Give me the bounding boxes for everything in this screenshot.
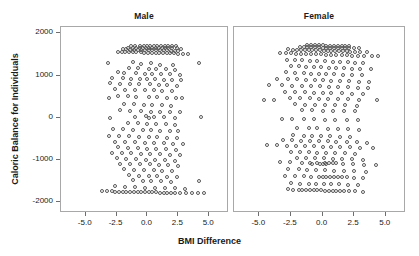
data-point	[120, 151, 124, 155]
data-point	[309, 72, 313, 76]
data-point	[333, 118, 337, 122]
x-tick	[116, 212, 117, 216]
data-point	[326, 127, 330, 131]
y-tick-label: 0	[20, 112, 53, 121]
data-point	[155, 135, 159, 139]
data-point	[357, 80, 361, 84]
data-point	[158, 110, 162, 114]
panel-strip-label-male: Male	[60, 11, 228, 21]
data-point	[302, 117, 306, 121]
data-point	[314, 52, 318, 56]
data-point	[293, 174, 297, 178]
data-point	[178, 73, 182, 77]
y-tick-label: 2000	[20, 27, 53, 36]
data-point	[159, 179, 163, 183]
x-axis-title: BMI Difference	[0, 236, 419, 246]
data-point	[317, 72, 321, 76]
data-point	[312, 117, 316, 121]
data-point	[116, 94, 120, 98]
data-point	[134, 157, 138, 161]
data-point	[295, 156, 299, 160]
data-point	[133, 185, 137, 189]
data-point	[333, 151, 337, 155]
data-point	[113, 87, 117, 91]
data-point	[340, 53, 344, 57]
data-point	[295, 126, 299, 130]
data-point	[137, 174, 141, 178]
data-point	[367, 80, 371, 84]
data-point	[165, 136, 169, 140]
data-point	[323, 168, 327, 172]
data-point	[176, 164, 180, 168]
data-point	[136, 121, 140, 125]
data-point	[324, 151, 328, 155]
data-point	[346, 85, 350, 89]
data-point	[106, 61, 110, 65]
data-point	[278, 51, 282, 55]
data-point	[298, 150, 302, 154]
data-point	[108, 81, 112, 85]
data-point	[294, 52, 298, 56]
data-point	[124, 157, 128, 161]
data-point	[290, 84, 294, 88]
data-point	[118, 108, 122, 112]
data-point	[148, 162, 152, 166]
data-point	[356, 54, 360, 58]
data-point	[152, 115, 156, 119]
data-point	[321, 78, 325, 82]
data-point	[291, 133, 295, 137]
y-tick-label: 1000	[20, 70, 53, 79]
data-point	[319, 65, 323, 69]
data-point	[139, 109, 143, 113]
data-point	[342, 66, 346, 70]
data-point	[171, 142, 175, 146]
data-point	[348, 135, 352, 139]
data-point	[290, 138, 294, 142]
data-point	[361, 61, 365, 65]
data-point	[176, 52, 180, 56]
data-point	[334, 161, 338, 165]
data-point	[289, 150, 293, 154]
data-point	[155, 95, 159, 99]
data-point	[322, 182, 326, 186]
data-point	[147, 174, 151, 178]
data-point	[108, 116, 112, 120]
data-point	[358, 67, 362, 71]
data-point	[353, 61, 357, 65]
x-tick	[385, 212, 386, 216]
data-point	[162, 78, 166, 82]
data-point	[343, 103, 347, 107]
data-point	[127, 134, 131, 138]
data-point	[332, 169, 336, 173]
data-point	[152, 88, 156, 92]
data-point	[122, 167, 126, 171]
data-point	[280, 117, 284, 121]
data-point	[131, 178, 135, 182]
data-point	[139, 152, 143, 156]
data-point	[144, 158, 148, 162]
data-point	[302, 134, 306, 138]
data-point	[122, 102, 126, 106]
data-point	[143, 186, 147, 190]
data-point	[357, 98, 361, 102]
data-point	[336, 97, 340, 101]
data-point	[111, 127, 115, 131]
data-point	[321, 145, 325, 149]
data-point	[175, 84, 179, 88]
data-point	[346, 127, 350, 131]
data-point	[281, 138, 285, 142]
data-point	[293, 90, 297, 94]
data-point	[131, 128, 135, 132]
data-point	[272, 98, 276, 102]
data-point	[341, 162, 345, 166]
data-point	[305, 168, 309, 172]
data-point	[313, 103, 317, 107]
data-point	[158, 152, 162, 156]
scatter-plot-figure: Male Female 200010000-1000-2000-5.0-2.50…	[0, 0, 419, 256]
data-point	[321, 91, 325, 95]
data-point	[286, 167, 290, 171]
data-point	[350, 54, 354, 58]
data-point	[133, 88, 137, 92]
data-point	[343, 151, 347, 155]
data-point	[136, 146, 140, 150]
